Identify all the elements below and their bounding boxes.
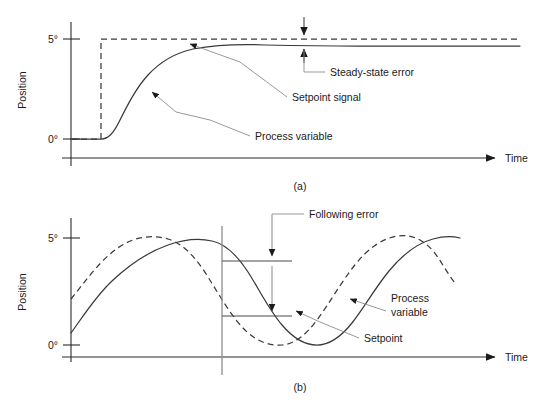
figure-root: 5° 0° Position Time Steady-state error S… (0, 0, 545, 402)
panel-b: 5° 0° Position Time Following error Proc… (16, 208, 528, 393)
panel-b-process-variable-curve (71, 237, 460, 345)
panel-a-y-axis-label: Position (16, 71, 28, 109)
panel-b-caption: (b) (294, 381, 307, 393)
panel-a-x-axis-label: Time (505, 152, 528, 164)
panel-a-setpoint-leader (190, 44, 287, 97)
panel-a-sse-leader (304, 50, 325, 72)
panel-b-x-axis-label: Time (505, 351, 528, 363)
panel-b-setpoint-curve (71, 236, 455, 346)
panel-a-process-variable-label: Process variable (255, 130, 333, 142)
panel-b-ytick-label-5: 5° (48, 232, 58, 244)
control-response-diagram: 5° 0° Position Time Steady-state error S… (0, 0, 545, 402)
panel-a-setpoint-signal-label: Setpoint signal (292, 91, 361, 103)
panel-a-ytick-label-0: 0° (48, 133, 58, 145)
panel-b-process-variable-label-line2: variable (391, 306, 428, 318)
panel-a-ytick-label-5: 5° (48, 33, 58, 45)
panel-b-setpoint-label: Setpoint (364, 332, 403, 344)
panel-b-following-error-label: Following error (309, 208, 379, 220)
panel-a-steady-state-error-label: Steady-state error (330, 66, 415, 78)
panel-b-ytick-label-0: 0° (48, 339, 58, 351)
panel-b-y-axis-label: Position (16, 273, 28, 311)
panel-b-process-variable-label-line1: Process (391, 292, 429, 304)
panel-a: 5° 0° Position Time Steady-state error S… (16, 17, 528, 192)
panel-a-setpoint-curve (71, 39, 520, 139)
panel-a-caption: (a) (294, 180, 307, 192)
panel-a-process-variable-leader (152, 92, 250, 136)
